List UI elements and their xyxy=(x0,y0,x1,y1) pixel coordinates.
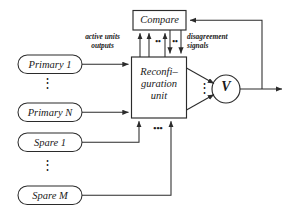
reconfig-label-line3: unit xyxy=(151,90,167,101)
disagreement-signals-annotation: disagreement signals xyxy=(187,33,249,50)
edge-spare1-to-reconfig xyxy=(82,121,139,142)
compare-right-pair-ellipsis: •• xyxy=(168,38,182,46)
bus-horizontal-ellipsis: ••• xyxy=(146,124,170,133)
voter-vertical-ellipsis: ⋮ xyxy=(198,81,211,95)
edge-reconfig-to-voter-bottom xyxy=(187,95,215,111)
spare-vertical-ellipsis: ⋮ xyxy=(40,158,54,172)
spare-m-label: Spare M xyxy=(18,190,82,201)
reconfig-label-line2: guration xyxy=(141,78,177,89)
primary-vertical-ellipsis: ⋮ xyxy=(40,76,54,90)
primary-1-label: Primary 1 xyxy=(18,59,82,70)
compare-label: Compare xyxy=(133,14,186,25)
reconfig-label-line1: Reconfi– xyxy=(140,66,177,77)
primary-n-label: Primary N xyxy=(18,107,82,118)
compare-left-pair-ellipsis: •• xyxy=(151,38,165,46)
active-units-outputs-annotation: active units outputs xyxy=(74,33,131,50)
system-block-diagram: Compare Reconfi– guration unit V Primary… xyxy=(0,0,289,217)
spare-1-label: Spare 1 xyxy=(18,137,82,148)
voter-label: V xyxy=(212,80,240,95)
reconfiguration-unit-label: Reconfi– guration unit xyxy=(132,66,187,101)
